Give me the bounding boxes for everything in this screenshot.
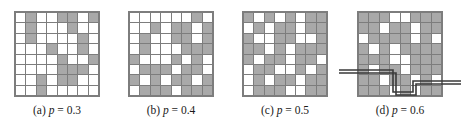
lattice-cell [203, 65, 212, 74]
lattice-cell [380, 75, 389, 84]
lattice-cell [37, 44, 46, 53]
lattice-cell [161, 44, 170, 53]
lattice-cell [359, 44, 368, 53]
lattice-cell [380, 34, 389, 43]
lattice-cell [161, 75, 170, 84]
lattice-cell [47, 55, 56, 64]
lattice-cell [26, 44, 35, 53]
caption-value-b: 0.4 [181, 104, 195, 116]
lattice-cell [306, 75, 315, 84]
lattice-cell [369, 75, 378, 84]
lattice-cell [411, 13, 420, 22]
lattice-cell [432, 44, 441, 53]
lattice-cell [37, 86, 46, 95]
lattice-cell [161, 86, 170, 95]
caption-symbol-b: p [163, 104, 169, 116]
lattice-cell [411, 44, 420, 53]
lattice-cell [275, 86, 284, 95]
lattice-cell [359, 23, 368, 32]
lattice-cell [182, 75, 191, 84]
lattice-cell [182, 55, 191, 64]
lattice-cell [47, 65, 56, 74]
lattice-cell [78, 75, 87, 84]
lattice-cell [317, 75, 326, 84]
lattice-cell [306, 13, 315, 22]
lattice-cell [359, 65, 368, 74]
lattice-cell [401, 23, 410, 32]
lattice-cell [432, 65, 441, 74]
lattice-cell [369, 34, 378, 43]
lattice-cell [130, 23, 139, 32]
lattice-cell [296, 44, 305, 53]
lattice-cell [411, 55, 420, 64]
lattice-cell [265, 86, 274, 95]
panel-b: (b) p = 0.4 [114, 0, 228, 134]
lattice-cell [296, 34, 305, 43]
caption-symbol-a: p [49, 104, 55, 116]
panel-c: (c) p = 0.5 [228, 0, 342, 134]
lattice-cell [401, 44, 410, 53]
lattice-cell [172, 34, 181, 43]
lattice-cell [401, 34, 410, 43]
lattice-cell [47, 23, 56, 32]
lattice-cell [244, 55, 253, 64]
caption-symbol-d: p [392, 104, 398, 116]
lattice-cell [151, 23, 160, 32]
lattice-cell [254, 75, 263, 84]
lattice-cell [286, 75, 295, 84]
lattice-cell [317, 13, 326, 22]
lattice-cell [254, 13, 263, 22]
lattice-cell [390, 44, 399, 53]
lattice-grid-a [14, 11, 100, 97]
lattice-cell [286, 34, 295, 43]
lattice-cell [254, 34, 263, 43]
lattice-cell [432, 86, 441, 95]
grid-cells-d [357, 11, 443, 97]
lattice-cell [411, 75, 420, 84]
lattice-cell [275, 65, 284, 74]
lattice-cell [182, 44, 191, 53]
lattice-cell [421, 13, 430, 22]
grid-cells-c [242, 11, 328, 97]
lattice-cell [432, 34, 441, 43]
lattice-cell [68, 55, 77, 64]
caption-value-c: 0.5 [295, 104, 309, 116]
lattice-cell [265, 13, 274, 22]
lattice-cell [317, 23, 326, 32]
lattice-cell [380, 44, 389, 53]
lattice-cell [78, 34, 87, 43]
panel-caption-d: (d) p = 0.6 [343, 104, 457, 116]
lattice-cell [380, 86, 389, 95]
lattice-cell [161, 55, 170, 64]
lattice-cell [203, 34, 212, 43]
lattice-cell [182, 34, 191, 43]
lattice-cell [140, 75, 149, 84]
lattice-cell [432, 55, 441, 64]
lattice-cell [275, 44, 284, 53]
lattice-cell [78, 86, 87, 95]
lattice-cell [172, 23, 181, 32]
lattice-cell [359, 34, 368, 43]
lattice-cell [26, 55, 35, 64]
lattice-cell [140, 44, 149, 53]
lattice-cell [432, 23, 441, 32]
lattice-cell [58, 34, 67, 43]
lattice-cell [58, 23, 67, 32]
lattice-cell [380, 13, 389, 22]
lattice-cell [89, 55, 98, 64]
lattice-cell [203, 44, 212, 53]
caption-equals-d: = [401, 104, 408, 116]
lattice-cell [306, 86, 315, 95]
lattice-cell [130, 75, 139, 84]
lattice-cell [296, 65, 305, 74]
lattice-cell [359, 86, 368, 95]
lattice-cell [26, 75, 35, 84]
lattice-cell [401, 55, 410, 64]
lattice-cell [16, 23, 25, 32]
lattice-cell [390, 65, 399, 74]
lattice-cell [411, 86, 420, 95]
caption-index-b: (b) [147, 104, 160, 116]
lattice-cell [265, 75, 274, 84]
lattice-cell [254, 55, 263, 64]
